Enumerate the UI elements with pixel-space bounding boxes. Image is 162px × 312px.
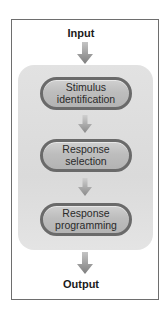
down-arrow-icon — [77, 42, 93, 64]
stage-response-programming: Response programming — [40, 203, 132, 236]
down-arrow-icon — [77, 252, 93, 274]
stage-label-line1: Response — [55, 208, 117, 220]
stage-label-line2: selection — [62, 156, 109, 168]
down-arrow-icon — [78, 178, 92, 196]
stage-label-line1: Response — [62, 144, 109, 156]
down-arrow-icon — [78, 115, 92, 133]
stage-response-selection: Response selection — [40, 139, 132, 172]
input-label: Input — [0, 27, 162, 39]
output-label: Output — [0, 278, 162, 290]
stage-label-line2: programming — [55, 220, 117, 232]
stage-label-line1: Stimulus — [57, 82, 115, 94]
stage-stimulus-identification: Stimulus identification — [40, 77, 132, 110]
stage-label-line2: identification — [57, 94, 115, 106]
